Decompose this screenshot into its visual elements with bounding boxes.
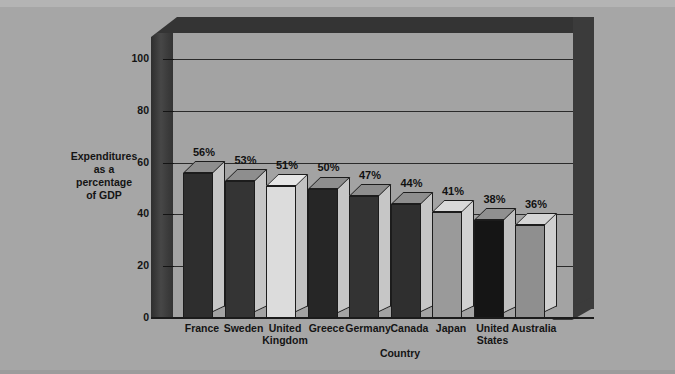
bar-canada[interactable] [391,204,421,318]
bar-germany[interactable] [349,196,379,318]
bar-value-label: 47% [347,169,393,181]
bar-value-label: 51% [264,159,310,171]
page-top-band [0,0,675,7]
y-axis-tick-label: 20 [111,259,149,271]
bar-side-face [379,184,391,312]
y-axis-tick-mark [163,214,174,215]
bar-front-face [349,196,379,318]
y-axis-tick-label: 0 [111,311,149,323]
bar-front-face [515,225,545,318]
x-axis-tick-label: Australia [503,322,565,334]
bar-front-face [474,220,504,319]
bar-side-face [296,174,308,312]
y-axis-tick-mark [163,266,174,267]
chart-frame-top-wall [151,17,594,33]
y-axis-title-line: percentage [48,176,160,189]
chart-canvas: Expendituresas apercentageof GDP Country… [0,0,675,374]
bar-front-face [183,173,213,318]
x-axis-baseline [151,317,594,319]
bar-front-face [432,212,462,318]
y-axis-tick-label: 60 [111,156,149,168]
bar-side-face [462,200,474,312]
bar-value-label: 50% [306,161,352,173]
bar-front-face [225,181,255,318]
y-axis-tick-mark [163,111,174,112]
bar-value-label: 56% [181,146,227,158]
y-axis-tick-mark [163,163,174,164]
bar-sweden[interactable] [225,181,255,318]
bar-value-label: 44% [389,177,435,189]
bar-united-states[interactable] [474,220,504,319]
chart-frame-right-wall [573,17,594,309]
bar-japan[interactable] [432,212,462,318]
bar-value-label: 41% [430,185,476,197]
bar-greece[interactable] [308,189,338,319]
page-bottom-band [0,370,675,374]
bar-value-label: 36% [513,198,559,210]
bar-side-face [338,177,350,312]
bar-side-face [255,169,267,312]
bar-united-kingdom[interactable] [266,186,296,318]
bar-france[interactable] [183,173,213,318]
bar-front-face [308,189,338,319]
y-axis-tick-label: 80 [111,104,149,116]
x-axis-tick-label-line: States [462,334,524,346]
gridline [173,59,573,60]
y-axis-tick-label: 100 [111,52,149,64]
bar-value-label: 53% [223,154,269,166]
bar-australia[interactable] [515,225,545,318]
x-axis-tick-label-line: Kingdom [254,334,316,346]
x-axis-tick-label-line: Australia [503,322,565,334]
bar-front-face [266,186,296,318]
gridline [173,111,573,112]
bar-side-face [421,192,433,312]
y-axis-title-line: of GDP [48,189,160,202]
bar-front-face [391,204,421,318]
y-axis-tick-label: 40 [111,207,149,219]
x-axis-title: Country [330,347,470,359]
bar-side-face [504,208,516,312]
y-axis-tick-mark [163,59,174,60]
bar-value-label: 38% [472,193,518,205]
bar-side-face [213,161,225,312]
bar-side-face [545,213,557,312]
